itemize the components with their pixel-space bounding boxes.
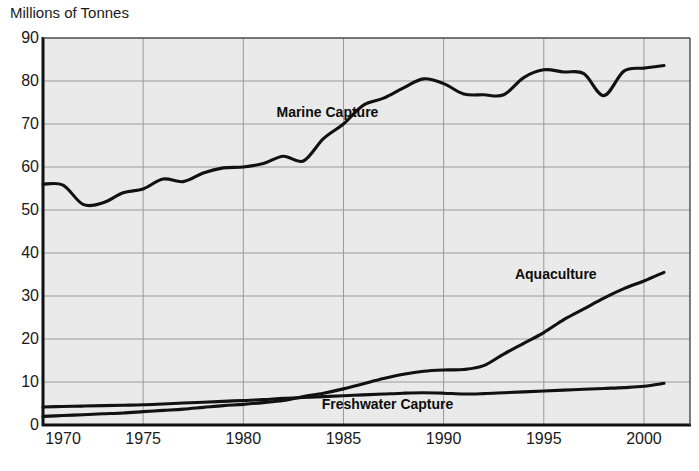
y-tick-label: 60 <box>3 158 39 176</box>
y-tick-label: 40 <box>3 244 39 262</box>
y-tick-label: 90 <box>3 29 39 47</box>
y-tick-label: 80 <box>3 72 39 90</box>
y-tick-label: 50 <box>3 201 39 219</box>
y-axis-ticks: 0102030405060708090 <box>0 0 39 471</box>
x-tick-label: 1985 <box>326 430 362 448</box>
series-label-aquaculture: Aquaculture <box>515 266 597 282</box>
x-tick-label: 1995 <box>526 430 562 448</box>
fisheries-production-chart: Millions of Tonnes 0102030405060708090 1… <box>0 0 699 471</box>
x-tick-label: 1975 <box>125 430 161 448</box>
y-tick-label: 0 <box>3 416 39 434</box>
y-tick-label: 70 <box>3 115 39 133</box>
series-label-marine: Marine Capture <box>276 104 378 120</box>
x-tick-label: 2000 <box>626 430 662 448</box>
y-tick-label: 30 <box>3 287 39 305</box>
series-label-freshwater: Freshwater Capture <box>322 396 453 412</box>
plot-background <box>43 38 690 425</box>
x-tick-label: 1990 <box>426 430 462 448</box>
y-tick-label: 20 <box>3 330 39 348</box>
x-tick-label: 1980 <box>226 430 262 448</box>
y-tick-label: 10 <box>3 373 39 391</box>
x-tick-label: 1970 <box>45 430 81 448</box>
